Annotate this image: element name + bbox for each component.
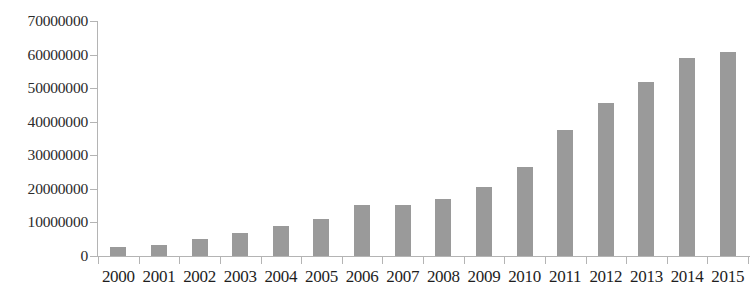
x-axis-tick-label: 2011: [549, 265, 581, 289]
x-axis-tick-mark: [139, 257, 140, 264]
y-axis-tick-mark: [90, 155, 97, 156]
x-axis-tick-label: 2005: [305, 265, 338, 289]
x-axis-tick-label: 2012: [589, 265, 622, 289]
y-axis-tick-mark: [90, 88, 97, 89]
y-axis-tick-label: 30000000: [0, 148, 88, 164]
y-axis-tick-label: 50000000: [0, 80, 88, 96]
y-axis-tick-label: 70000000: [0, 13, 88, 29]
x-axis-tick-mark: [382, 257, 383, 264]
x-axis-tick-label: 2006: [346, 265, 379, 289]
x-axis-tick-mark: [342, 257, 343, 264]
bar: [435, 199, 451, 256]
bar: [110, 247, 126, 256]
x-axis-ticks: [0, 257, 755, 265]
y-axis-tick-mark: [90, 55, 97, 56]
bar: [476, 187, 492, 256]
x-axis-tick-mark: [667, 257, 668, 264]
x-axis-tick-mark: [626, 257, 627, 264]
x-axis-tick-label: 2007: [386, 265, 419, 289]
x-axis-tick-label: 2000: [102, 265, 135, 289]
bar: [232, 233, 248, 256]
x-axis-tick-mark: [301, 257, 302, 264]
x-axis-tick-label: 2003: [224, 265, 257, 289]
x-axis-tick-mark: [748, 257, 749, 264]
x-axis-tick-mark: [261, 257, 262, 264]
x-axis-tick-mark: [179, 257, 180, 264]
x-axis-tick-label: 2015: [711, 265, 744, 289]
bar: [557, 130, 573, 256]
x-axis-tick-label: 2009: [468, 265, 501, 289]
x-axis-tick-label: 2014: [671, 265, 704, 289]
x-axis-tick-label: 2010: [508, 265, 541, 289]
x-axis-tick-mark: [464, 257, 465, 264]
x-axis-tick-label: 2008: [427, 265, 460, 289]
bar: [517, 167, 533, 256]
bar: [151, 245, 167, 256]
x-axis-tick-mark: [98, 257, 99, 264]
bar: [720, 52, 736, 256]
x-axis-tick-label: 2001: [143, 265, 176, 289]
bar: [395, 205, 411, 256]
x-axis-tick-mark: [504, 257, 505, 264]
y-axis-tick-mark: [90, 21, 97, 22]
bar: [313, 219, 329, 256]
y-axis-tick-mark: [90, 189, 97, 190]
y-axis-tick-label: 10000000: [0, 215, 88, 231]
x-axis-tick-label: 2004: [264, 265, 297, 289]
y-axis-tick-label: 40000000: [0, 114, 88, 130]
y-axis-tick-label: 20000000: [0, 181, 88, 197]
bar: [598, 103, 614, 256]
x-axis-tick-mark: [545, 257, 546, 264]
bar: [354, 205, 370, 256]
bar: [273, 226, 289, 256]
bar-chart: 0100000002000000030000000400000005000000…: [0, 0, 755, 292]
x-axis-tick-mark: [586, 257, 587, 264]
y-axis-tick-mark: [90, 222, 97, 223]
y-axis: 0100000002000000030000000400000005000000…: [0, 0, 88, 292]
plot-area: [98, 21, 748, 256]
y-axis-tick-mark: [90, 256, 97, 257]
x-axis-tick-mark: [707, 257, 708, 264]
y-axis-tick-label: 60000000: [0, 47, 88, 63]
x-axis-tick-label: 2013: [630, 265, 663, 289]
x-axis-tick-mark: [423, 257, 424, 264]
x-axis-tick-mark: [220, 257, 221, 264]
x-axis-tick-label: 2002: [183, 265, 216, 289]
y-axis-tick-mark: [90, 122, 97, 123]
bar: [192, 239, 208, 256]
bar: [679, 58, 695, 256]
x-axis: 2000200120022003200420052006200720082009…: [0, 265, 755, 292]
bar: [638, 82, 654, 256]
